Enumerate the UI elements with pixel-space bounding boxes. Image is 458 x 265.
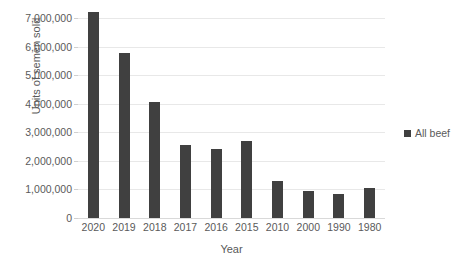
- bar-chart: Units of semen sold 01,000,0002,000,0003…: [0, 0, 458, 265]
- x-axis-tick-label: 2017: [174, 221, 197, 233]
- bar: [88, 12, 99, 217]
- x-axis-tick-label: 2010: [266, 221, 289, 233]
- y-axis-tick-label: 6,000,000: [25, 41, 72, 53]
- x-axis-tick-label: 1990: [327, 221, 350, 233]
- legend: All beef: [404, 127, 450, 139]
- cropped-caption: [0, 261, 458, 265]
- legend-swatch-icon: [404, 130, 411, 137]
- bar: [119, 53, 130, 218]
- bar: [241, 141, 252, 218]
- bar-series-all-beef: [78, 12, 385, 218]
- x-axis-tick-label: 2016: [205, 221, 228, 233]
- x-axis-tick-label: 1980: [358, 221, 381, 233]
- bar: [272, 181, 283, 218]
- x-axis-tick-label: 2019: [112, 221, 135, 233]
- y-axis-tick-label: 5,000,000: [25, 69, 72, 81]
- y-axis-tick-label: 1,000,000: [25, 183, 72, 195]
- y-axis-tick-labels: 01,000,0002,000,0003,000,0004,000,0005,0…: [0, 12, 72, 218]
- x-axis-tick-labels: 2020201920182017201620152010200019901980: [78, 221, 385, 237]
- x-axis-title: Year: [78, 243, 385, 255]
- y-axis-tick-label: 3,000,000: [25, 126, 72, 138]
- legend-label-all-beef: All beef: [415, 127, 450, 139]
- bar: [211, 149, 222, 218]
- plot-area: [78, 12, 385, 218]
- bar: [364, 188, 375, 217]
- y-axis-tick-label: 4,000,000: [25, 98, 72, 110]
- x-axis-tick-label: 2020: [82, 221, 105, 233]
- bar: [303, 191, 314, 218]
- x-axis-tick-label: 2018: [143, 221, 166, 233]
- x-axis-tick-label: 2015: [235, 221, 258, 233]
- y-axis-tick-label: 2,000,000: [25, 155, 72, 167]
- bar: [333, 194, 344, 218]
- bar: [149, 102, 160, 218]
- y-axis-tick-label: 0: [66, 212, 72, 224]
- bar: [180, 145, 191, 217]
- y-axis-tick-label: 7,000,000: [25, 12, 72, 24]
- x-axis-tick-label: 2000: [297, 221, 320, 233]
